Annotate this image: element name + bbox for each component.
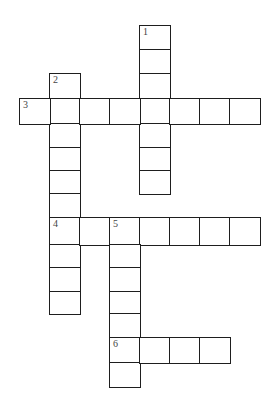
- crossword-cell[interactable]: [139, 337, 171, 364]
- crossword-cell[interactable]: [109, 291, 141, 315]
- crossword-cell[interactable]: [199, 337, 231, 364]
- crossword-cell[interactable]: 5: [109, 217, 141, 246]
- crossword-cell[interactable]: [139, 49, 171, 75]
- crossword-cell[interactable]: [139, 123, 171, 149]
- clue-number: 6: [113, 339, 118, 349]
- crossword-cell[interactable]: [109, 244, 141, 269]
- crossword-cell[interactable]: [49, 291, 81, 315]
- crossword-cell[interactable]: [229, 217, 261, 246]
- clue-number: 1: [143, 27, 148, 37]
- crossword-cell[interactable]: 2: [49, 73, 81, 100]
- crossword-cell[interactable]: [49, 123, 81, 149]
- crossword-cell[interactable]: [139, 170, 171, 195]
- crossword-cell[interactable]: [229, 98, 261, 125]
- crossword-cell[interactable]: [49, 267, 81, 293]
- crossword-cell[interactable]: [139, 147, 171, 172]
- crossword-cell[interactable]: [49, 147, 81, 172]
- crossword-cell[interactable]: [139, 98, 171, 125]
- crossword-cell[interactable]: [169, 98, 201, 125]
- clue-number: 3: [23, 100, 28, 110]
- clue-number: 5: [113, 219, 118, 229]
- crossword-cell[interactable]: [79, 98, 111, 125]
- crossword-cell[interactable]: [109, 267, 141, 293]
- crossword-cell[interactable]: 4: [49, 217, 81, 246]
- crossword-cell[interactable]: [49, 193, 81, 219]
- crossword-cell[interactable]: [109, 313, 141, 339]
- crossword-cell[interactable]: [109, 98, 141, 125]
- crossword-cell[interactable]: 1: [139, 25, 171, 51]
- clue-number: 2: [53, 75, 58, 85]
- crossword-cell[interactable]: [109, 362, 141, 388]
- crossword-cell[interactable]: [169, 217, 201, 246]
- crossword-cell[interactable]: [199, 98, 231, 125]
- crossword-cell[interactable]: [49, 170, 81, 195]
- crossword-cell[interactable]: [139, 217, 171, 246]
- crossword-cell[interactable]: [169, 337, 201, 364]
- crossword-cell[interactable]: [139, 73, 171, 100]
- crossword-cell[interactable]: [49, 98, 81, 125]
- crossword-cell[interactable]: 6: [109, 337, 141, 364]
- crossword-cell[interactable]: 3: [19, 98, 51, 125]
- crossword-cell[interactable]: [49, 244, 81, 269]
- crossword-cell[interactable]: [79, 217, 111, 246]
- clue-number: 4: [53, 219, 58, 229]
- crossword-cell[interactable]: [199, 217, 231, 246]
